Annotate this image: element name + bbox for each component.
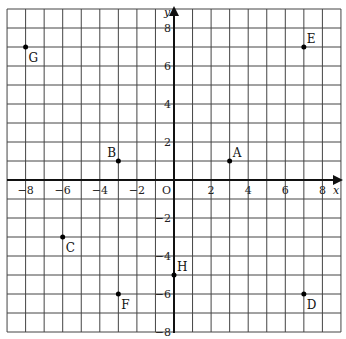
y-tick-label: 2: [164, 136, 171, 149]
x-tick-label: 2: [208, 184, 215, 197]
x-tick-label: 8: [319, 184, 326, 197]
x-axis-label: x: [333, 184, 340, 197]
point-c: [60, 235, 65, 240]
point-label-b: B: [107, 146, 116, 160]
coordinate-plane: x y O −8−6−4−224688642−2−4−6−8 ABCDEFGH: [0, 0, 346, 339]
point-label-h: H: [177, 260, 187, 274]
point-f: [116, 292, 121, 297]
point-a: [227, 159, 232, 164]
point-h: [172, 273, 177, 278]
point-label-f: F: [121, 298, 129, 312]
point-label-g: G: [29, 51, 39, 65]
point-label-e: E: [307, 32, 316, 46]
point-label-c: C: [66, 241, 75, 255]
point-e: [301, 45, 306, 50]
point-g: [23, 45, 28, 50]
y-tick-label: −4: [155, 250, 171, 263]
y-axis-label: y: [163, 6, 171, 19]
x-tick-label: 4: [245, 184, 252, 197]
x-tick-label: −6: [55, 184, 71, 197]
x-tick-label: −2: [129, 184, 145, 197]
point-b: [116, 159, 121, 164]
x-tick-label: −4: [92, 184, 108, 197]
x-tick-label: −8: [17, 184, 33, 197]
y-tick-label: −6: [155, 288, 171, 301]
point-d: [301, 292, 306, 297]
points: ABCDEFGH: [23, 32, 316, 312]
y-tick-label: −2: [155, 212, 171, 225]
y-tick-label: 8: [164, 22, 171, 35]
point-label-a: A: [232, 146, 242, 160]
y-axis-arrow-icon: [169, 6, 179, 16]
y-tick-label: 6: [164, 60, 171, 73]
x-tick-label: 6: [282, 184, 289, 197]
point-label-d: D: [307, 298, 317, 312]
origin-label: O: [162, 184, 171, 197]
y-tick-label: −8: [155, 326, 171, 339]
y-tick-label: 4: [164, 98, 171, 111]
